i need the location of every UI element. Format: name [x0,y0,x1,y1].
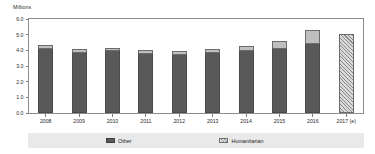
x-axis-tick: 2011 [129,114,162,128]
chart-legend: Other Humanitarian [28,133,364,148]
y-axis-tick-label: 4.0 [16,47,25,53]
bar-stack[interactable] [272,41,287,113]
x-axis-tick-label: 2011 [140,118,151,124]
x-axis: 2008200920102011201220132014201520162017… [29,114,363,128]
bar-column[interactable] [229,19,262,113]
x-axis-tick: 2008 [29,114,62,128]
bar-stack[interactable] [305,30,320,113]
bar-column[interactable] [96,19,129,113]
bar-segment-other[interactable] [272,49,287,113]
y-axis-tick: 5.0 [16,31,28,39]
y-axis-tick: 6.0 [16,15,28,23]
y-axis: 0.01.02.03.04.05.06.0 [0,18,28,114]
y-axis-tick: 0.0 [16,109,28,117]
bar-column[interactable] [129,19,162,113]
bar-column[interactable] [330,19,363,113]
x-axis-tick-mark [112,114,113,117]
x-axis-tick: 2017 (e) [330,114,363,128]
x-axis-tick-label: 2016 [307,118,319,124]
bar-column[interactable] [196,19,229,113]
x-axis-tick: 2013 [196,114,229,128]
bar-segment-other[interactable] [105,51,120,113]
legend-item-humanitarian[interactable]: Humanitarian [219,138,263,144]
x-axis-tick-mark [145,114,146,117]
x-axis-tick: 2012 [163,114,196,128]
bar-column[interactable] [263,19,296,113]
bar-column[interactable] [29,19,62,113]
bar-segment-other[interactable] [172,55,187,113]
x-axis-tick: 2014 [229,114,262,128]
bar-column[interactable] [62,19,95,113]
bar-stack[interactable] [72,49,87,113]
x-axis-tick: 2016 [296,114,329,128]
x-axis-tick-label: 2009 [73,118,85,124]
chart-figure: Millions 0.01.02.03.04.05.06.0 200820092… [0,0,375,154]
legend-label-humanitarian: Humanitarian [231,138,263,144]
x-axis-tick-mark [79,114,80,117]
x-axis-tick-label: 2015 [274,118,286,124]
bar-column[interactable] [296,19,329,113]
y-axis-tick-label: 2.0 [16,79,25,85]
legend-item-other[interactable]: Other [106,138,131,144]
y-axis-tick-label: 1.0 [16,94,25,100]
y-axis-tick: 2.0 [16,78,28,86]
bar-segment-other[interactable] [138,54,153,113]
bar-segment-humanitarian[interactable] [272,41,287,49]
x-axis-tick-label: 2012 [173,118,185,124]
bar-stack[interactable] [205,49,220,113]
bar-segment-humanitarian[interactable] [305,30,320,44]
x-axis-tick-label: 2014 [240,118,252,124]
x-axis-tick-label: 2017 (e) [337,118,356,124]
x-axis-tick-label: 2010 [107,118,119,124]
y-axis-tick: 3.0 [16,62,28,70]
y-axis-title: Millions [13,4,31,10]
x-axis-tick-label: 2008 [40,118,52,124]
x-axis-tick-mark [212,114,213,117]
y-axis-tick-label: 3.0 [16,63,25,69]
bar-segment-other[interactable] [305,44,320,113]
x-axis-tick-mark [45,114,46,117]
bar-stack[interactable] [138,50,153,113]
legend-swatch-humanitarian-icon [219,138,228,143]
x-axis-tick: 2015 [263,114,296,128]
x-axis-tick-mark [246,114,247,117]
legend-label-other: Other [118,138,131,144]
x-axis-tick-mark [179,114,180,117]
x-axis-tick-mark [346,114,347,117]
y-axis-tick-label: 6.0 [16,16,25,22]
bar-stack[interactable] [105,48,120,113]
x-axis-tick-mark [279,114,280,117]
bar-segment-other[interactable] [72,53,87,113]
bar-segment-other[interactable] [205,53,220,113]
bar-segment-other[interactable] [239,51,254,113]
bar-stack[interactable] [172,51,187,113]
y-axis-tick-label: 5.0 [16,32,25,38]
x-axis-tick: 2009 [62,114,95,128]
x-axis-tick: 2010 [96,114,129,128]
bar-stack[interactable] [239,46,254,113]
bar-segment-estimate[interactable] [339,34,354,113]
x-axis-tick-label: 2013 [207,118,219,124]
y-axis-tick: 1.0 [16,93,28,101]
bar-stack[interactable] [339,34,354,113]
y-axis-tick: 4.0 [16,46,28,54]
y-axis-tick-label: 0.0 [16,110,25,116]
bar-stack[interactable] [38,45,53,113]
bar-column[interactable] [163,19,196,113]
legend-swatch-other-icon [106,138,115,143]
bar-series-group [29,19,363,113]
x-axis-tick-mark [312,114,313,117]
bar-segment-other[interactable] [38,49,53,113]
